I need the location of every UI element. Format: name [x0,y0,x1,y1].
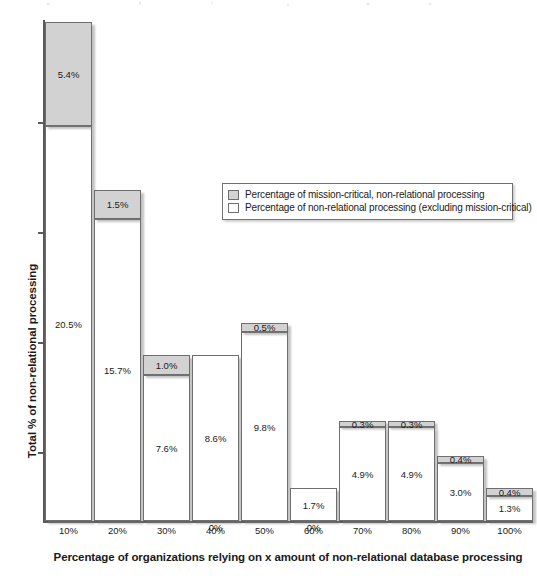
bar-value-label-non-mission-critical: 1.7% [291,499,336,510]
bar-segment-non-mission-critical: 3.0% [437,463,484,521]
bar-column: 15.7%1.5% [94,190,141,521]
plot-area: 20.5%5.4%15.7%1.5%7.6%1.0%8.6%0%9.8%0.5%… [0,0,537,576]
bar-value-label-non-mission-critical: 20.5% [46,318,91,329]
bar-value-label-non-mission-critical: 9.8% [242,421,287,432]
bar-column: 8.6%0% [192,355,239,521]
bar-segment-non-mission-critical: 1.7% [290,488,337,521]
bar-segment-non-mission-critical: 15.7% [94,219,141,521]
x-axis-tick-label: 60% [290,525,337,536]
x-axis-tick-label: 30% [143,525,190,536]
bar-value-label-mission-critical: 1.5% [95,199,140,210]
legend-entry-non-mission-critical: Percentage of non-relational processing … [228,201,507,214]
bar-value-label-non-mission-critical: 15.7% [95,364,140,375]
bar-value-label-non-mission-critical: 1.3% [487,503,532,514]
bar-column: 7.6%1.0% [143,355,190,521]
x-axis-tick-label: 10% [45,525,92,536]
legend-swatch-gray-icon [228,190,239,200]
bar-column: 4.9%0.3% [388,421,435,521]
bar-column: 1.3%0.4% [486,488,533,521]
bar-value-label-mission-critical: 0.5% [242,322,287,333]
bar-segment-non-mission-critical: 8.6% [192,355,239,521]
bar-segment-mission-critical: 5.4% [45,22,92,126]
legend-entry-mission-critical: Percentage of mission-critical, non-rela… [228,188,507,201]
bar-column: 4.9%0.3% [339,421,386,521]
bar-value-label-non-mission-critical: 3.0% [438,487,483,498]
legend-label-mission-critical: Percentage of mission-critical, non-rela… [245,189,484,200]
bar-segment-non-mission-critical: 20.5% [45,126,92,521]
bar-value-label-mission-critical: 5.4% [46,69,91,80]
bar-value-label-non-mission-critical: 8.6% [193,433,238,444]
bar-value-label-mission-critical: 0.4% [438,454,483,465]
bar-column: 9.8%0.5% [241,323,288,521]
bar-segment-mission-critical: 0.4% [486,488,533,496]
bar-value-label-non-mission-critical: 7.6% [144,442,189,453]
stacked-bar-chart: Total % of non-relational processing 20.… [0,0,537,576]
bar-segment-non-mission-critical: 1.3% [486,496,533,521]
bar-column: 1.7%0% [290,488,337,521]
bar-value-label-mission-critical: 0.4% [487,487,532,498]
bar-segment-mission-critical: 0.4% [437,456,484,464]
x-axis-title: Percentage of organizations relying on x… [43,551,533,563]
bar-segment-non-mission-critical: 7.6% [143,375,190,521]
x-axis-tick-label: 70% [339,525,386,536]
x-axis-tick-label: 90% [437,525,484,536]
bar-segment-mission-critical: 1.5% [94,190,141,219]
legend-label-non-mission-critical: Percentage of non-relational processing … [245,202,532,213]
legend-swatch-white-icon [228,203,239,213]
bar-segment-mission-critical: 0.5% [241,323,288,333]
x-axis-tick-label: 100% [486,525,533,536]
bar-segment-mission-critical: 1.0% [143,355,190,374]
bar-column: 3.0%0.4% [437,456,484,522]
bar-segment-non-mission-critical: 9.8% [241,332,288,521]
chart-legend: Percentage of mission-critical, non-rela… [222,183,513,220]
bar-value-label-mission-critical: 1.0% [144,359,189,370]
bar-segment-non-mission-critical: 4.9% [339,427,386,521]
bar-column: 20.5%5.4% [45,22,92,521]
bar-value-label-non-mission-critical: 4.9% [389,468,434,479]
x-axis-tick-label: 50% [241,525,288,536]
bar-segment-mission-critical: 0.3% [339,421,386,427]
x-axis-tick-label: 40% [192,525,239,536]
bar-segment-non-mission-critical: 4.9% [388,427,435,521]
bar-value-label-non-mission-critical: 4.9% [340,468,385,479]
bar-segment-mission-critical: 0.3% [388,421,435,427]
x-axis-tick-label: 20% [94,525,141,536]
x-axis-tick-label: 80% [388,525,435,536]
